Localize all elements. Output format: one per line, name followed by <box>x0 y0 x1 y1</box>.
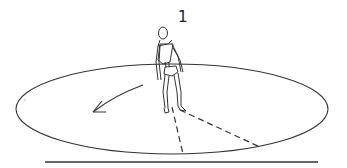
diagram-canvas <box>0 0 347 168</box>
rotation-arrow-icon <box>93 85 143 112</box>
dashed-sightlines <box>172 107 260 154</box>
standing-figure <box>156 27 186 113</box>
